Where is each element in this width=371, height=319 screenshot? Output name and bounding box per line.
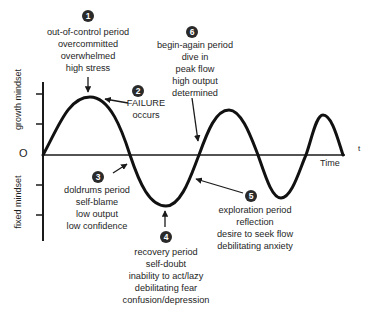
annotation-line: exploration period: [205, 204, 305, 216]
annotation-line: overwhelmed: [38, 50, 138, 62]
annotation-doldrums: doldrums period self-blame low output lo…: [52, 184, 142, 232]
annotation-line: desire to seek flow: [205, 228, 305, 240]
annotation-failure: FAILURE occurs: [126, 97, 166, 121]
annotation-line: debilitating fear: [116, 282, 216, 294]
annotation-line: dive in: [145, 51, 245, 63]
annotation-out-of-control: out-of-control period overcommitted over…: [38, 26, 138, 74]
arrow-3: [113, 164, 127, 173]
arrow-6: [192, 98, 198, 141]
annotation-line: low output: [52, 208, 142, 220]
annotation-line: reflection: [205, 216, 305, 228]
x-axis-label-time: Time: [320, 158, 340, 168]
annotation-exploration: exploration period reflection desire to …: [205, 204, 305, 252]
y-axis-label-fixed: fixed mindset: [13, 172, 23, 232]
annotation-line: peak flow: [145, 63, 245, 75]
annotation-line: determined: [145, 87, 245, 99]
annotation-line: high stress: [38, 62, 138, 74]
arrow-5: [196, 179, 243, 193]
mindset-cycle-diagram: growth mindset fixed mindset O Time t 1 …: [0, 0, 371, 319]
badge-6: 6: [186, 26, 198, 38]
annotation-line: confusion/depression: [116, 294, 216, 306]
y-axis-label-growth: growth mindset: [13, 70, 23, 130]
annotation-line: overcommitted: [38, 38, 138, 50]
annotation-line: begin-again period: [145, 39, 245, 51]
annotation-recovery: recovery period self-doubt inability to …: [116, 246, 216, 306]
x-axis-end-marker: t: [358, 144, 360, 153]
annotation-line: low confidence: [52, 220, 142, 232]
annotation-line: high output: [145, 75, 245, 87]
annotation-line: occurs: [126, 109, 166, 121]
badge-1: 1: [82, 10, 94, 22]
annotation-line: recovery period: [116, 246, 216, 258]
annotation-line: self-blame: [52, 196, 142, 208]
annotation-line: doldrums period: [52, 184, 142, 196]
annotation-line: self-doubt: [116, 258, 216, 270]
annotation-line: debilitating anxiety: [205, 240, 305, 252]
annotation-line: out-of-control period: [38, 26, 138, 38]
annotation-line: inability to act/lazy: [116, 270, 216, 282]
annotation-begin-again: begin-again period dive in peak flow hig…: [145, 39, 245, 99]
badge-4: 4: [160, 231, 172, 243]
arrow-2: [105, 99, 128, 103]
origin-label: O: [19, 147, 28, 159]
badge-2: 2: [132, 85, 144, 97]
badge-3: 3: [92, 171, 104, 183]
badge-5: 5: [245, 190, 257, 202]
